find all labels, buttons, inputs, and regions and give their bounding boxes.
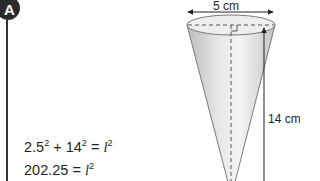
eq2-equals: = <box>68 162 85 178</box>
equation-2: 202.25 = l2 <box>24 161 94 179</box>
diameter-label: 5 cm <box>213 0 239 13</box>
eq1-term-b: + 14 <box>49 139 82 155</box>
eq1-term-a: 2.5 <box>24 139 44 155</box>
eq2-var-exp: 2 <box>89 161 94 171</box>
height-label: 14 cm <box>268 112 300 126</box>
eq1-var-exp: 2 <box>107 138 112 148</box>
eq2-value: 202.25 <box>24 162 68 178</box>
eq1-equals: = <box>87 139 104 155</box>
equation-1: 2.52 + 142 = l2 <box>24 138 112 156</box>
